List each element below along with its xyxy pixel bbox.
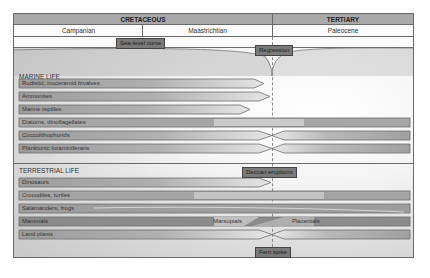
kt-extinction-diagram: CRETACEOUS TERTIARY Campanian Maastricht… (13, 13, 414, 258)
fern-spike-label: Fern spike (255, 247, 291, 258)
row-crocodiles-turtles: Crocodiles, turtles (22, 192, 70, 198)
row-marine-reptiles: Marine reptiles (22, 106, 61, 112)
placentals-label: Placentals (292, 218, 320, 224)
deccan-eruptions-label: Deccan eruptions (242, 167, 297, 178)
row-dinosaurs: Dinosaurs (22, 179, 49, 185)
row-coccolithophorids: Coccolithophorids (22, 132, 70, 138)
marsupials-label: Marsupials (213, 218, 242, 224)
row-diatoms: Diatoms, dinoflagellates (22, 119, 86, 125)
row-rudistids: Rudistid, inoceramid bivalves (22, 80, 100, 86)
row-planktonic-forams: Planktonic foraminiferans (22, 145, 89, 151)
row-land-plants: Land plants (22, 231, 53, 237)
row-salamanders-frogs: Salamanders, frogs (22, 205, 74, 211)
row-mammals: Mammals (22, 218, 48, 224)
section-divider (14, 163, 413, 164)
terrestrial-life-title: TERRESTRIAL LIFE (19, 167, 79, 174)
row-ammonites: Ammonites (22, 93, 52, 99)
